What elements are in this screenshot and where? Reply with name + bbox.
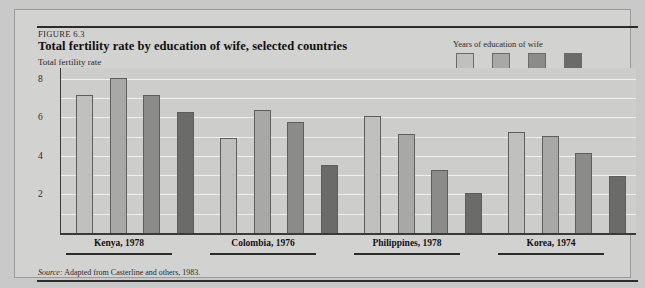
x-axis-group-labels: Kenya, 1978Colombia, 1976Philippines, 19… — [60, 238, 636, 268]
bar[interactable] — [143, 95, 160, 234]
x-axis-group-rule — [210, 253, 316, 255]
bar[interactable] — [364, 116, 381, 234]
x-axis-group-label: Kenya, 1978 — [60, 238, 178, 248]
legend-swatch — [492, 53, 510, 69]
source-prefix: Source: — [38, 268, 63, 277]
y-axis-tick-label: 4 — [38, 151, 54, 161]
y-axis-tick-label: 2 — [38, 189, 54, 199]
source-note: Source: Adapted from Casterline and othe… — [38, 268, 200, 277]
bar[interactable] — [76, 95, 93, 234]
y-axis-title: Total fertility rate — [38, 57, 101, 67]
bar[interactable] — [465, 193, 482, 234]
bar[interactable] — [398, 134, 415, 234]
bar[interactable] — [321, 165, 338, 234]
source-text: Adapted from Casterline and others, 1983… — [64, 268, 200, 277]
figure-title: Total fertility rate by education of wif… — [38, 39, 347, 54]
bar[interactable] — [254, 110, 271, 234]
figure-root: FIGURE 6.3 Total fertility rate by educa… — [0, 0, 645, 288]
x-axis-group-label: Colombia, 1976 — [204, 238, 322, 248]
figure-card: FIGURE 6.3 Total fertility rate by educa… — [14, 9, 631, 278]
bar[interactable] — [508, 132, 525, 234]
legend-swatch — [564, 53, 582, 69]
bottom-divider — [37, 280, 638, 282]
legend-swatch — [456, 53, 474, 69]
bar[interactable] — [609, 176, 626, 234]
top-divider — [37, 26, 638, 28]
y-axis-tick-label: 8 — [38, 74, 54, 84]
bar[interactable] — [287, 122, 304, 234]
gridline — [60, 79, 636, 80]
legend-title: Years of education of wife — [453, 39, 637, 49]
x-axis-group-label: Philippines, 1978 — [348, 238, 466, 248]
figure-number: FIGURE 6.3 — [38, 29, 85, 39]
x-axis-group-label: Korea, 1974 — [492, 238, 610, 248]
bar[interactable] — [110, 78, 127, 234]
plot-wrapper: 2468 — [38, 68, 636, 234]
bar[interactable] — [177, 112, 194, 234]
legend-swatch — [528, 53, 546, 69]
y-axis-line — [60, 68, 61, 234]
y-axis-tick-label: 6 — [38, 112, 54, 122]
bar[interactable] — [431, 170, 448, 234]
bar[interactable] — [542, 136, 559, 234]
x-axis-line — [60, 233, 636, 235]
x-axis-group-rule — [498, 253, 604, 255]
x-axis-group-rule — [66, 253, 172, 255]
bar[interactable] — [220, 138, 237, 235]
x-axis-group-rule — [354, 253, 460, 255]
plot-area — [60, 68, 636, 234]
bar[interactable] — [575, 153, 592, 234]
